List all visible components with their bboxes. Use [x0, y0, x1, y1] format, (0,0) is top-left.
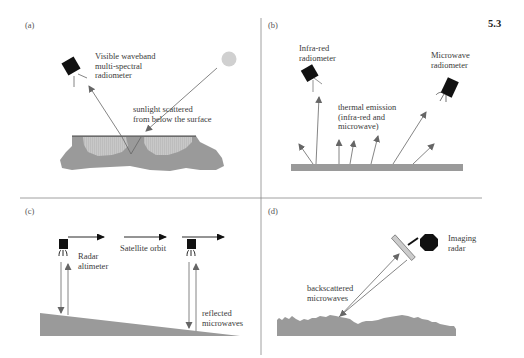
label-line: microwaves	[307, 294, 353, 304]
panel-label-a: (a)	[25, 20, 34, 30]
rough-terrain	[277, 315, 456, 336]
panel-label-d: (d)	[268, 206, 278, 216]
annotation-thermal-emission: thermal emission (infra-red and microwav…	[338, 103, 396, 132]
radar-altimeter-icon-2	[187, 239, 196, 256]
label-line: radiometer	[95, 71, 156, 81]
visible-radiometer-icon	[61, 56, 87, 87]
annotation-sunlight-scattered: sunlight scattered from below the surfac…	[133, 105, 212, 124]
instrument-label-infrared-radiometer: Infra-red radiometer	[299, 44, 336, 63]
infrared-radiometer-icon	[301, 64, 322, 92]
instrument-label-radar-altimeter: Radar altimeter	[78, 252, 108, 271]
instrument-label-microwave-radiometer: Microwave radiometer	[431, 51, 470, 70]
panel-dividers	[20, 18, 482, 355]
scattered-ray	[89, 86, 122, 137]
label-line: radiometer	[431, 61, 470, 71]
satellite-orbit-label: Satellite orbit	[120, 244, 166, 254]
section-number: 5.3	[488, 18, 501, 29]
annotation-reflected-microwaves: reflected microwaves	[202, 309, 243, 328]
label-line: radiometer	[299, 54, 336, 64]
imaging-radar-icon	[391, 234, 438, 260]
instrument-label-visible-radiometer: Visible waveband multi-spectral radiomet…	[95, 52, 156, 81]
sun-icon	[222, 52, 237, 67]
annotation-backscattered-microwaves: backscattered microwaves	[307, 284, 353, 303]
panel-label-c: (c)	[25, 206, 34, 216]
label-line: altimeter	[78, 262, 108, 272]
label-line: from below the surface	[133, 115, 212, 125]
label-line: microwave)	[338, 122, 396, 132]
panel-label-b: (b)	[268, 20, 278, 30]
panel-d-drawing	[277, 234, 456, 336]
microwave-radiometer-icon	[436, 77, 459, 102]
emitting-surface	[291, 164, 463, 171]
label-line: microwaves	[202, 319, 243, 329]
radar-altimeter-icon-1	[59, 239, 68, 256]
label-line: radar	[448, 244, 476, 254]
instrument-label-imaging-radar: Imaging radar	[448, 234, 476, 253]
